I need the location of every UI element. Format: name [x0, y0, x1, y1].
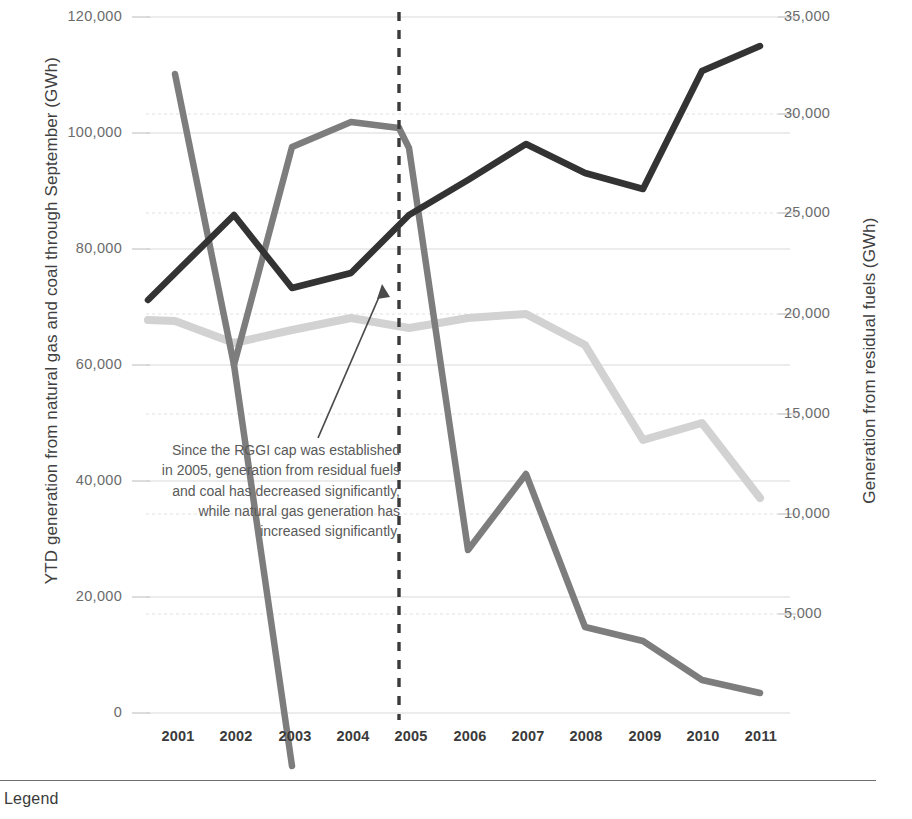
- right-tick-20000: 20,000: [784, 305, 870, 321]
- x-tick-2011: 2011: [731, 728, 791, 744]
- x-tick-2008: 2008: [556, 728, 616, 744]
- x-tick-2006: 2006: [440, 728, 500, 744]
- right-tick-35000: 35,000: [784, 8, 870, 24]
- left-tick-80000: 80,000: [36, 240, 122, 256]
- right-tick-30000: 30,000: [784, 105, 870, 121]
- x-tick-2005: 2005: [381, 728, 441, 744]
- x-tick-2009: 2009: [615, 728, 675, 744]
- chart-container: YTD generation from natural gas and coal…: [0, 0, 912, 819]
- right-tick-5000: 5,000: [784, 605, 870, 621]
- series-line-natural-gas: [148, 46, 760, 300]
- right-tick-25000: 25,000: [784, 204, 870, 220]
- annotation-arrow: [318, 284, 390, 438]
- x-tick-2007: 2007: [498, 728, 558, 744]
- chart-annotation-text: Since the RGGI cap was established in 20…: [160, 440, 400, 541]
- plot-area: [0, 0, 912, 819]
- series-line-coal: [175, 74, 292, 766]
- left-tick-100000: 100,000: [36, 124, 122, 140]
- right-tick-15000: 15,000: [784, 405, 870, 421]
- x-tick-2004: 2004: [323, 728, 383, 744]
- legend-title: Legend: [4, 790, 59, 808]
- x-tick-2002: 2002: [206, 728, 266, 744]
- legend-divider: [0, 780, 876, 781]
- gridlines-solid: [146, 17, 790, 713]
- right-tick-10000: 10,000: [784, 505, 870, 521]
- left-tick-20000: 20,000: [36, 588, 122, 604]
- x-tick-2010: 2010: [673, 728, 733, 744]
- x-tick-2001: 2001: [148, 728, 208, 744]
- left-tick-60000: 60,000: [36, 356, 122, 372]
- left-tick-0: 0: [36, 704, 122, 720]
- left-tick-40000: 40,000: [36, 472, 122, 488]
- x-tick-2003: 2003: [265, 728, 325, 744]
- left-tick-120000: 120,000: [36, 8, 122, 24]
